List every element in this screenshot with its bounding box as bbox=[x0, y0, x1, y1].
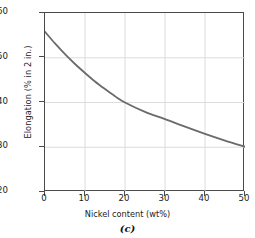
x-tick-label: 10 bbox=[64, 193, 104, 203]
y-tick-label: 40 bbox=[0, 96, 8, 106]
x-tick-label: 20 bbox=[104, 193, 144, 203]
x-tick-label: 40 bbox=[184, 193, 224, 203]
x-axis-label: Nickel content (wt%) bbox=[0, 209, 255, 219]
y-tickmark bbox=[39, 101, 44, 102]
y-tickmark bbox=[39, 56, 44, 57]
gridlines-group bbox=[45, 13, 245, 192]
chart-svg bbox=[45, 13, 245, 192]
x-tick-label: 30 bbox=[144, 193, 184, 203]
y-tick-label: 20 bbox=[0, 185, 8, 195]
y-tick-label: 50 bbox=[0, 51, 8, 61]
data-series-group bbox=[45, 32, 245, 147]
y-tick-label: 30 bbox=[0, 140, 8, 150]
figure-caption: (c) bbox=[0, 223, 255, 234]
x-tick-label: 50 bbox=[224, 193, 255, 203]
y-tick-label: 60 bbox=[0, 6, 8, 16]
y-axis-label: Elongation (% in 2 in.) bbox=[23, 2, 33, 182]
plot-area bbox=[44, 12, 244, 191]
x-tick-label: 0 bbox=[24, 193, 64, 203]
figure-elongation-vs-nickel-content: Elongation (% in 2 in.) 2030405060 01020… bbox=[0, 0, 255, 238]
y-tickmark bbox=[39, 12, 44, 13]
data-curve bbox=[45, 32, 245, 147]
y-tickmark bbox=[39, 146, 44, 147]
